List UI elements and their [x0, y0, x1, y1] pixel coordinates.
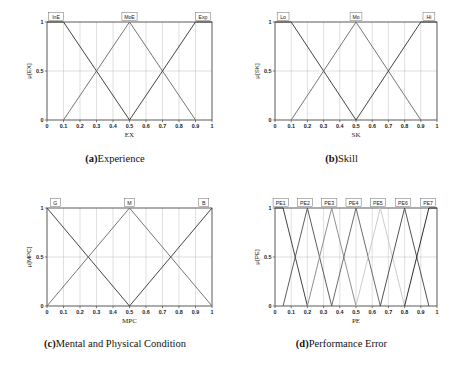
x-tick-label: 0: [274, 309, 277, 315]
set-label-PE3: PE3: [324, 200, 334, 206]
y-tick-label: 1: [41, 205, 44, 211]
x-axis-label: PE: [352, 317, 360, 325]
x-tick-label: 0.2: [76, 309, 84, 315]
x-tick-label: 0.8: [175, 309, 183, 315]
x-axis-label: SK: [352, 131, 361, 139]
y-tick-label: 0: [269, 303, 272, 309]
x-tick-label: 0.3: [320, 123, 328, 129]
y-axis-label: μ[MPC]: [25, 246, 32, 267]
x-tick-label: 0.2: [76, 123, 84, 129]
x-tick-label: 0.2: [304, 309, 312, 315]
panel-b: LoMoHi00.5100.10.20.30.40.50.60.70.80.91…: [230, 0, 453, 186]
chart-a-svg: InEMoEExp00.5100.10.20.30.40.50.60.70.80…: [0, 0, 230, 150]
caption-a-text: Experience: [98, 153, 145, 164]
y-tick-label: 0.5: [36, 254, 44, 260]
x-tick-label: 0.5: [126, 123, 134, 129]
set-label-Lo: Lo: [280, 14, 286, 20]
x-tick-label: 0.7: [159, 123, 167, 129]
y-tick-label: 0.5: [264, 68, 272, 74]
x-tick-label: 0.7: [385, 123, 393, 129]
x-tick-label: 1: [436, 123, 439, 129]
x-tick-label: 0.6: [142, 123, 150, 129]
y-tick-label: 0.5: [36, 68, 44, 74]
x-axis-label: MPC: [122, 317, 137, 325]
set-label-Mo: Mo: [352, 14, 359, 20]
y-tick-label: 0: [41, 117, 44, 123]
y-tick-label: 1: [269, 205, 272, 211]
x-tick-label: 0: [46, 309, 49, 315]
figure-panel-grid: InEMoEExp00.5100.10.20.30.40.50.60.70.80…: [0, 0, 453, 374]
panel-a: InEMoEExp00.5100.10.20.30.40.50.60.70.80…: [0, 0, 230, 186]
x-tick-label: 0.4: [336, 309, 344, 315]
y-tick-label: 0: [41, 303, 44, 309]
set-label-PE7: PE7: [423, 200, 433, 206]
y-tick-label: 0: [269, 117, 272, 123]
set-label-PE1: PE1: [276, 200, 286, 206]
set-label-PE4: PE4: [349, 200, 359, 206]
x-tick-label: 0.1: [60, 123, 68, 129]
panel-d: PE1PE2PE3PE4PE5PE6PE700.5100.10.20.30.40…: [230, 186, 453, 374]
x-tick-label: 0.3: [93, 309, 101, 315]
set-label-PE2: PE2: [300, 200, 310, 206]
set-label-M: M: [127, 200, 131, 206]
caption-b-text: Skill: [338, 153, 358, 164]
x-tick-label: 0.8: [175, 123, 183, 129]
x-tick-label: 0.6: [142, 309, 150, 315]
x-tick-label: 1: [211, 123, 214, 129]
x-tick-label: 0.2: [304, 123, 312, 129]
x-tick-label: 0.4: [109, 309, 117, 315]
set-label-B: B: [202, 200, 206, 206]
x-tick-label: 0.7: [385, 309, 393, 315]
x-tick-label: 0.5: [352, 123, 360, 129]
x-tick-label: 0.9: [192, 309, 200, 315]
x-tick-label: 1: [211, 309, 214, 315]
x-tick-label: 0.7: [159, 309, 167, 315]
set-label-MoE: MoE: [124, 14, 135, 20]
set-label-PE5: PE5: [373, 200, 383, 206]
x-tick-label: 0.4: [109, 123, 117, 129]
set-label-G: G: [53, 200, 57, 206]
set-label-Exp: Exp: [198, 14, 207, 20]
set-label-Hi: Hi: [426, 14, 431, 20]
x-tick-label: 0.3: [93, 123, 101, 129]
y-tick-label: 1: [269, 19, 272, 25]
x-tick-label: 0: [274, 123, 277, 129]
x-tick-label: 0.6: [368, 309, 376, 315]
caption-b-tag: (b): [325, 153, 338, 164]
y-tick-label: 1: [41, 19, 44, 25]
x-axis-label: EX: [125, 131, 134, 139]
y-axis-label: μ[EX]: [25, 63, 32, 79]
x-tick-label: 0.9: [417, 123, 425, 129]
caption-a-tag: (a): [85, 153, 97, 164]
caption-c-tag: (c): [44, 338, 56, 349]
set-label-PE6: PE6: [398, 200, 408, 206]
x-tick-label: 0.8: [401, 309, 409, 315]
x-tick-label: 0.8: [401, 123, 409, 129]
y-axis-label: μ[SK]: [253, 63, 260, 79]
caption-b: (b)Skill: [230, 153, 453, 164]
caption-d-text: Performance Error: [309, 338, 387, 349]
x-tick-label: 0.6: [368, 123, 376, 129]
x-tick-label: 0.5: [352, 309, 360, 315]
chart-b-svg: LoMoHi00.5100.10.20.30.40.50.60.70.80.91…: [230, 0, 453, 150]
x-tick-label: 0.9: [417, 309, 425, 315]
x-tick-label: 0.1: [287, 309, 295, 315]
x-tick-label: 0.4: [336, 123, 344, 129]
caption-d: (d)Performance Error: [230, 338, 453, 349]
x-tick-label: 0: [46, 123, 49, 129]
y-tick-label: 0.5: [264, 254, 272, 260]
chart-d-svg: PE1PE2PE3PE4PE5PE6PE700.5100.10.20.30.40…: [230, 186, 453, 336]
set-label-InE: InE: [52, 14, 60, 20]
x-tick-label: 0.1: [60, 309, 68, 315]
caption-a: (a)Experience: [0, 153, 230, 164]
caption-c-text: Mental and Physical Condition: [56, 338, 186, 349]
chart-c-svg: GMB00.5100.10.20.30.40.50.60.70.80.91MPC…: [0, 186, 230, 336]
caption-c: (c)Mental and Physical Condition: [0, 338, 230, 349]
y-axis-label: μ[PE]: [253, 249, 260, 265]
x-tick-label: 1: [436, 309, 439, 315]
panel-c: GMB00.5100.10.20.30.40.50.60.70.80.91MPC…: [0, 186, 230, 374]
x-tick-label: 0.9: [192, 123, 200, 129]
caption-d-tag: (d): [296, 338, 309, 349]
x-tick-label: 0.1: [287, 123, 295, 129]
x-tick-label: 0.5: [126, 309, 134, 315]
